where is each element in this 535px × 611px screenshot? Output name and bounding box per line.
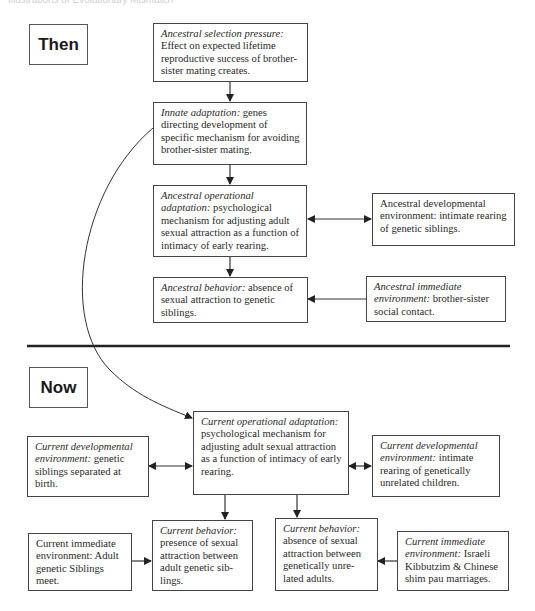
innate-adaptation-box: Innate adaptation: genes directing devel… (153, 102, 307, 165)
box-text: psychological mechanism for adjusting ad… (201, 428, 342, 476)
box-text: presence of sexual attraction between ad… (160, 537, 238, 585)
box-sep: : (280, 28, 284, 39)
current-developmental-environment-right-box: Current developmental environment: intim… (372, 435, 500, 497)
box-text: Ancestral developmental environment: int… (380, 198, 507, 234)
box-text: Current immediate environment: Adult gen… (36, 538, 119, 586)
then-label: Then (29, 24, 88, 65)
box-title: Ancestral behavior (161, 282, 242, 293)
ancestral-behavior-box: Ancestral behavior: absence of sexual at… (153, 277, 308, 323)
box-text: Effect on expected lifetime reproductive… (161, 40, 297, 76)
current-developmental-environment-left-box: Current developmental environment: genet… (27, 436, 149, 497)
current-behavior-right-box: Current behavior: absence of sexual attr… (275, 518, 378, 591)
ancestral-selection-pressure-box: Ancestral selection pressure: Effect on … (153, 23, 308, 82)
current-immediate-environment-right-box: Current immediate environment: Israeli K… (397, 531, 509, 591)
box-title: Current behavior: (283, 523, 360, 534)
box-sep: : (233, 525, 237, 536)
now-label-text: Now (41, 378, 77, 398)
ancestral-operational-adaptation-box: Ancestral operational adaptation: psycho… (153, 185, 307, 257)
then-label-text: Then (38, 35, 79, 55)
arrow-innate-to-current-operational (82, 128, 192, 418)
current-immediate-environment-left-box: Current immediate environment: Adult gen… (28, 533, 132, 591)
ancestral-immediate-environment-box: Ancestral immediate environment: brother… (366, 276, 506, 322)
box-title: Ancestral selection pressure (161, 28, 280, 39)
now-label: Now (29, 367, 88, 408)
current-behavior-left-box: Current behavior: presence of sexual att… (152, 520, 253, 591)
box-title: Innate adaptation (161, 107, 237, 118)
box-sep: : (335, 416, 339, 427)
box-text: absence of sexual attraction between gen… (283, 535, 361, 583)
box-title: Current operational adaptation (201, 416, 335, 427)
ancestral-developmental-environment-box: Ancestral developmental environment: int… (372, 193, 515, 246)
box-title: Current behavior (160, 525, 233, 536)
current-operational-adaptation-box: Current operational adaptation: psycholo… (193, 411, 349, 495)
